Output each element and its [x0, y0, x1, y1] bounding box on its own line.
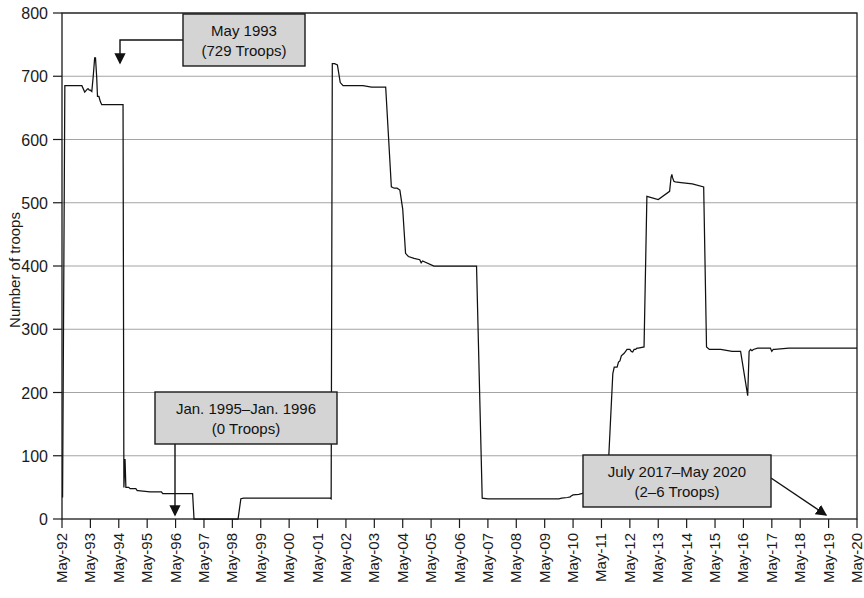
x-tick-label: May-19 — [820, 533, 837, 583]
x-tick-label: May-08 — [507, 533, 524, 583]
y-tick-label: 400 — [21, 258, 48, 275]
x-tick-label: May-92 — [53, 533, 70, 583]
x-tick-label: May-00 — [280, 533, 297, 583]
x-tick-label: May-06 — [451, 533, 468, 583]
x-tick-label: May-12 — [621, 533, 638, 583]
x-tick-label: May-13 — [649, 533, 666, 583]
annotation-line-1: May 1993 — [211, 22, 277, 39]
y-tick-label: 200 — [21, 385, 48, 402]
x-tick-label: May-10 — [564, 533, 581, 583]
x-tick-marks — [62, 519, 857, 528]
y-tick-label: 600 — [21, 132, 48, 149]
series-path — [62, 58, 857, 519]
y-tick-label: 500 — [21, 195, 48, 212]
x-tick-label: May-05 — [422, 533, 439, 583]
x-tick-labels: May-92May-93May-94May-95May-96May-97May-… — [53, 533, 864, 583]
data-series-line — [62, 58, 857, 519]
x-tick-label: May-20 — [848, 533, 864, 583]
x-tick-label: May-94 — [110, 533, 127, 583]
y-axis-title-text: Number of troops — [6, 212, 23, 328]
annotation-line-1: July 2017–May 2020 — [608, 463, 746, 480]
x-tick-label: May-18 — [791, 533, 808, 583]
y-tick-labels: 0100200300400500600700800 — [21, 5, 48, 528]
y-tick-label: 800 — [21, 5, 48, 22]
x-tick-label: May-09 — [536, 533, 553, 583]
troops-line-chart: 0100200300400500600700800 Number of troo… — [0, 0, 864, 598]
x-tick-label: May-96 — [167, 533, 184, 583]
x-tick-label: May-93 — [81, 533, 98, 583]
y-tick-label: 700 — [21, 68, 48, 85]
x-tick-label: May-11 — [592, 533, 609, 582]
x-tick-label: May-17 — [763, 533, 780, 583]
annotations: May 1993(729 Troops)Jan. 1995–Jan. 1996(… — [120, 14, 826, 515]
x-tick-label: May-07 — [479, 533, 496, 583]
chart-figure: 0100200300400500600700800 Number of troo… — [0, 0, 864, 598]
annotation-zero-1995-1996: Jan. 1995–Jan. 1996(0 Troops) — [155, 392, 337, 444]
annotation-line-1: Jan. 1995–Jan. 1996 — [176, 400, 316, 417]
x-tick-label: May-99 — [252, 533, 269, 583]
annotation-peak-1993: May 1993(729 Troops) — [183, 14, 305, 66]
y-tick-label: 0 — [39, 511, 48, 528]
x-tick-label: May-97 — [195, 533, 212, 583]
x-tick-label: May-95 — [138, 533, 155, 583]
annotation-line-2: (2–6 Troops) — [634, 483, 719, 500]
annotation-line-2: (729 Troops) — [201, 42, 286, 59]
y-tick-label: 300 — [21, 321, 48, 338]
annotation-leader-line — [120, 40, 183, 63]
x-tick-label: May-01 — [309, 533, 326, 583]
x-tick-label: May-02 — [337, 533, 354, 583]
y-tick-label: 100 — [21, 448, 48, 465]
annotation-drawdown-2017-2020: July 2017–May 2020(2–6 Troops) — [583, 455, 771, 507]
x-tick-label: May-14 — [678, 533, 695, 583]
annotation-leader-line — [771, 478, 826, 515]
x-tick-label: May-15 — [706, 533, 723, 583]
x-tick-label: May-04 — [394, 533, 411, 583]
annotation-line-2: (0 Troops) — [212, 420, 280, 437]
y-axis-title: Number of troops — [6, 212, 23, 328]
x-tick-label: May-98 — [223, 533, 240, 583]
x-tick-label: May-03 — [365, 533, 382, 583]
x-tick-label: May-16 — [734, 533, 751, 583]
